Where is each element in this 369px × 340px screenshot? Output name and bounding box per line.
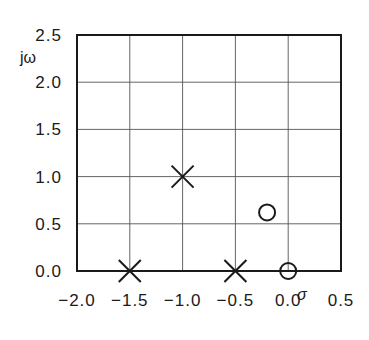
pole-zero-plot: −2.0−1.5−1.0−0.50.00.5 0.00.51.01.52.02.… [0,0,369,340]
x-tick-label: −1.5 [111,291,149,310]
y-tick-label: 0.5 [35,215,62,234]
y-tick-label: 2.0 [35,73,62,92]
x-axis-label: σ [297,286,308,303]
y-tick-label: 1.0 [35,168,62,187]
x-tick-label: −2.0 [58,291,96,310]
plot-frame [77,35,341,271]
x-tick-label: −1.0 [164,291,202,310]
y-tick-label: 1.5 [35,120,62,139]
grid-lines [77,35,341,271]
zero-marker [259,204,275,220]
y-tick-label: 2.5 [35,26,62,45]
y-tick-label: 0.0 [35,262,62,281]
y-tick-labels: 0.00.51.01.52.02.5 [35,26,62,281]
y-axis-label: jω [19,49,36,66]
x-tick-label: 0.5 [328,291,355,310]
x-tick-labels: −2.0−1.5−1.0−0.50.00.5 [58,291,354,310]
x-tick-label: −0.5 [217,291,255,310]
